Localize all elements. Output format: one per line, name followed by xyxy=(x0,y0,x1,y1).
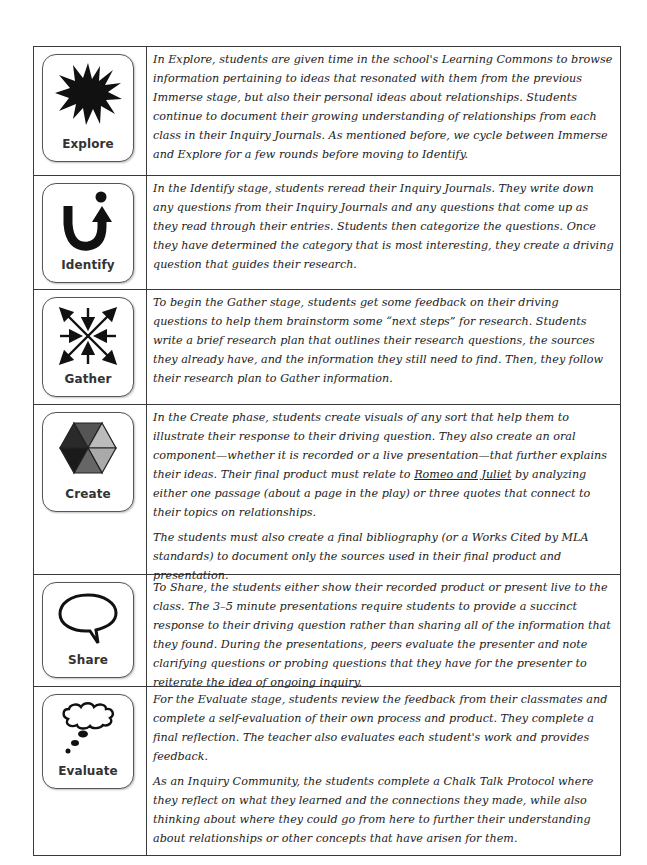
paragraph: In the Create phase, students create vis… xyxy=(153,408,614,522)
gather-card: Gather xyxy=(42,297,134,397)
stage-row-create: Create In the Create phase, students cre… xyxy=(34,404,620,574)
stage-description: In the Create phase, students create vis… xyxy=(147,405,620,574)
inquiry-stages-table: Explore In Explore, students are given t… xyxy=(33,46,621,856)
paragraph: In the Identify stage, students reread t… xyxy=(153,179,614,274)
paragraph: To Share, the students either show their… xyxy=(153,578,614,692)
paragraph: In Explore, students are given time in t… xyxy=(153,50,614,164)
explore-card: Explore xyxy=(42,54,134,162)
thought-bubble-icon xyxy=(56,701,120,757)
stage-label: Evaluate xyxy=(58,764,118,778)
identify-card: Identify xyxy=(42,183,134,283)
icon-cell: Evaluate xyxy=(34,687,147,855)
stage-label: Gather xyxy=(65,372,112,386)
paragraph: For the Evaluate stage, students review … xyxy=(153,690,614,766)
stage-label: Share xyxy=(68,653,108,667)
share-card: Share xyxy=(42,582,134,678)
stage-label: Create xyxy=(65,487,110,501)
stage-row-explore: Explore In Explore, students are given t… xyxy=(34,47,620,175)
icon-cell: Explore xyxy=(34,47,147,175)
paragraph: As an Inquiry Community, the students co… xyxy=(153,772,614,848)
book-title: Romeo and Juliet xyxy=(414,468,511,481)
evaluate-card: Evaluate xyxy=(42,694,134,789)
icon-cell: Share xyxy=(34,575,147,686)
u-turn-arrow-icon xyxy=(58,190,118,252)
create-card: Create xyxy=(42,412,134,512)
stage-label: Identify xyxy=(61,258,114,272)
stage-row-evaluate: Evaluate For the Evaluate stage, student… xyxy=(34,686,620,855)
stage-description: In Explore, students are given time in t… xyxy=(147,47,620,175)
speech-bubble-icon xyxy=(56,589,120,647)
icon-cell: Gather xyxy=(34,290,147,404)
stage-description: For the Evaluate stage, students review … xyxy=(147,687,620,855)
paragraph: To begin the Gather stage, students get … xyxy=(153,293,614,388)
stage-row-gather: Gather To begin the Gather stage, studen… xyxy=(34,289,620,404)
stage-row-share: Share To Share, the students either show… xyxy=(34,574,620,686)
converging-arrows-icon xyxy=(56,304,120,368)
stage-row-identify: Identify In the Identify stage, students… xyxy=(34,175,620,289)
stage-label: Explore xyxy=(62,137,114,151)
stage-description: In the Identify stage, students reread t… xyxy=(147,176,620,289)
icon-cell: Create xyxy=(34,405,147,574)
hexagon-icon xyxy=(58,419,118,477)
stage-description: To begin the Gather stage, students get … xyxy=(147,290,620,404)
stage-description: To Share, the students either show their… xyxy=(147,575,620,686)
icon-cell: Identify xyxy=(34,176,147,289)
starburst-icon xyxy=(53,61,123,127)
